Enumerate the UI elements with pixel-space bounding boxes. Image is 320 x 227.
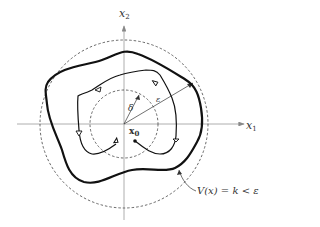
x0-label: x0 [129,127,139,137]
x1-axis-label: x1 [246,120,257,133]
delta-label: δ [128,104,133,113]
trajectory-arrow-4 [114,138,119,144]
x2-axis-label: x2 [119,8,130,21]
level-set-label: V(x) = k < ε [197,186,259,196]
trajectory-arrow-3 [76,131,82,136]
level-set-leader-arrowhead [177,170,182,175]
epsilon-label: ε [156,96,160,104]
delta-radius-arrowhead [135,95,140,100]
trajectory-arrow-1 [152,79,158,86]
x0-point [133,139,137,143]
trajectory-arrow-5 [173,139,179,142]
level-set-leader [179,170,196,191]
